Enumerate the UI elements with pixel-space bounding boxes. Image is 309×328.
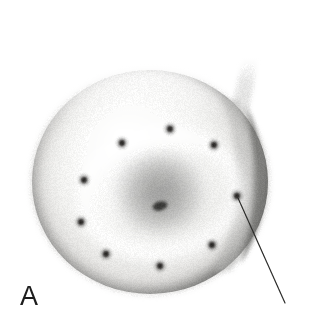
micrograph-image	[0, 0, 309, 328]
figure-panel: A	[0, 0, 309, 328]
panel-label: A	[20, 283, 39, 310]
